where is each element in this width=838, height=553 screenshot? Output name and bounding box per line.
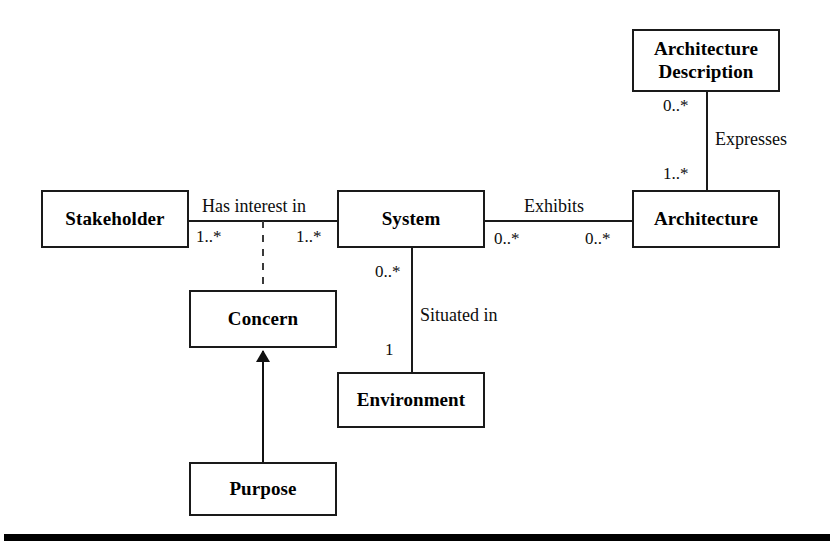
edge-label-expresses: Expresses [715,130,787,148]
node-stakeholder-label: Stakeholder [61,208,168,230]
edge-label-exhibits: Exhibits [524,197,584,215]
multiplicity-environment-situated-end: 1 [385,341,394,358]
footer-divider [4,534,830,541]
node-environment-label: Environment [353,389,469,411]
node-concern-label: Concern [224,308,302,330]
edge-label-situated-in: Situated in [420,306,498,324]
node-concern[interactable]: Concern [189,290,337,348]
node-architecture[interactable]: Architecture [632,190,780,248]
node-system[interactable]: System [337,190,485,248]
node-architecture-label: Architecture [650,208,762,230]
node-environment[interactable]: Environment [337,372,485,428]
multiplicity-system-stakeholder-end: 1..* [296,228,322,245]
multiplicity-stakeholder-end: 1..* [196,228,222,245]
multiplicity-system-exhibits-end: 0..* [494,230,520,247]
multiplicity-architecture-description-expresses-end: 0..* [663,97,689,114]
node-purpose[interactable]: Purpose [189,462,337,516]
node-stakeholder[interactable]: Stakeholder [41,190,189,248]
multiplicity-system-situated-end: 0..* [375,263,401,280]
multiplicity-architecture-exhibits-end: 0..* [585,230,611,247]
node-architecture-description[interactable]: Architecture Description [632,29,780,92]
node-system-label: System [378,208,445,230]
diagram-canvas: Architecture Description Stakeholder Sys… [0,0,838,553]
multiplicity-architecture-expresses-end: 1..* [663,165,689,182]
node-architecture-description-label: Architecture Description [650,38,762,83]
node-purpose-label: Purpose [225,478,300,500]
edge-label-has-interest-in: Has interest in [202,197,306,215]
